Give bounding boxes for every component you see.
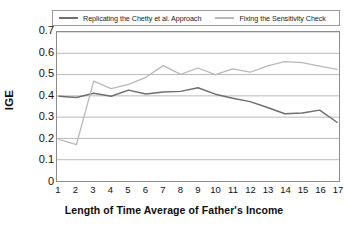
legend-label: Replicating the Chetty et al. Approach bbox=[83, 14, 201, 23]
legend-entry-replicating-chetty: Replicating the Chetty et al. Approach bbox=[59, 14, 201, 23]
y-axis-title: IGE bbox=[3, 80, 15, 120]
y-axis-tick-label: 0.2 bbox=[20, 132, 54, 144]
legend-label: Fixing the Sensitivity Check bbox=[239, 14, 325, 23]
legend-line-swatch-icon bbox=[59, 17, 78, 19]
chart-figure: Replicating the Chetty et al. Approach F… bbox=[0, 0, 348, 228]
chart-legend: Replicating the Chetty et al. Approach F… bbox=[52, 10, 340, 26]
y-axis-tick-label: 0.6 bbox=[20, 46, 54, 58]
series-line bbox=[59, 62, 337, 145]
y-axis-tick-label: 0.4 bbox=[20, 89, 54, 101]
x-axis-title: Length of Time Average of Father's Incom… bbox=[0, 204, 348, 216]
plot-area bbox=[56, 31, 340, 182]
y-axis-tick-labels: 00.10.20.30.40.50.60.7 bbox=[14, 31, 54, 182]
legend-entry-fixing-sensitivity-check: Fixing the Sensitivity Check bbox=[215, 14, 325, 23]
plot-lines bbox=[57, 32, 339, 181]
y-axis-tick-label: 0.3 bbox=[20, 110, 54, 122]
y-axis-tick-label: 0.5 bbox=[20, 67, 54, 79]
y-axis-tick-label: 0.7 bbox=[20, 24, 54, 36]
legend-line-swatch-icon bbox=[215, 17, 234, 19]
x-axis-tick-labels: 1234567891011121314151617 bbox=[56, 184, 340, 200]
x-axis-tick-label: 17 bbox=[328, 184, 348, 195]
y-axis-tick-label: 0.1 bbox=[20, 153, 54, 165]
